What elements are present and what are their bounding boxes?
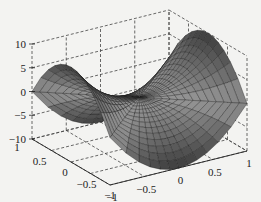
x-tick-label: 0.5 xyxy=(208,166,222,178)
z-axis-ticks: 1050−5−10 xyxy=(9,38,35,145)
y-tick-label: 0.5 xyxy=(33,155,47,167)
x-tick-label: 0 xyxy=(178,174,184,186)
y-tick-label: 0 xyxy=(62,166,68,178)
x-tick-label: −0.5 xyxy=(136,183,156,195)
z-tick-label: 0 xyxy=(21,86,27,98)
y-tick-label: 1 xyxy=(14,141,20,153)
z-tick-label: 5 xyxy=(21,62,27,74)
z-tick-label: 10 xyxy=(15,38,27,50)
x-tick-label: 1 xyxy=(246,157,252,169)
surface-plot: 1050−5−10 10.50−0.5−1 −1−0.500.51 xyxy=(0,0,261,202)
z-tick-label: −5 xyxy=(14,109,26,121)
y-tick-label: −0.5 xyxy=(77,178,97,190)
saddle-surface xyxy=(32,30,247,169)
x-tick-label: −1 xyxy=(106,191,118,202)
